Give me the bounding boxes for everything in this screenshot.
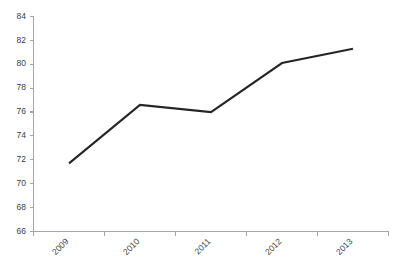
y-tick-label: 70: [17, 178, 27, 188]
y-tick-label: 76: [17, 106, 27, 116]
y-tick-label: 82: [17, 35, 27, 45]
y-tick-label: 66: [17, 226, 27, 236]
y-tick-label: 80: [17, 58, 27, 68]
y-tick-label: 72: [17, 154, 27, 164]
y-tick-label: 84: [17, 11, 27, 21]
line-chart: 66 68 70 72 74 76 78 80 82 84 2009 2010 …: [0, 0, 402, 271]
y-tick-label: 74: [17, 130, 27, 140]
chart-background: [0, 0, 402, 271]
y-tick-label: 78: [17, 82, 27, 92]
chart-canvas: 66 68 70 72 74 76 78 80 82 84 2009 2010 …: [0, 0, 402, 271]
y-tick-label: 68: [17, 202, 27, 212]
